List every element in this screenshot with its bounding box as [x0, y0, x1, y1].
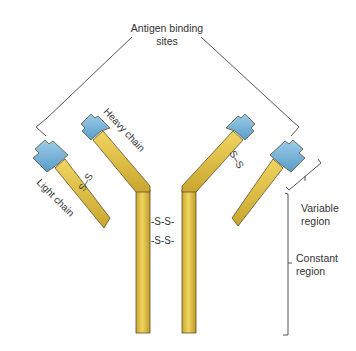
hinge-disulfide-bonds: -S-S- -S-S- [151, 216, 174, 246]
light-chain-right [232, 140, 305, 226]
constant-region-label-2: region [296, 265, 325, 277]
hinge-bond-2: -S-S- [151, 235, 174, 246]
heavy-chain-right [182, 114, 255, 333]
variable-region-label-1: Variable [301, 202, 339, 214]
antigen-binding-leaders [36, 37, 299, 136]
antibody-diagram: -S-S- -S-S- S–S S–S Heavy chain Light ch… [0, 0, 356, 351]
hinge-bond-1: -S-S- [151, 216, 174, 227]
constant-region-label-1: Constant [296, 252, 338, 264]
constant-region-bracket [283, 193, 292, 335]
antigen-binding-sites-label-2: sites [156, 35, 178, 47]
light-heavy-bond-right: S–S [227, 149, 246, 171]
light-heavy-bond-left: S–S [76, 171, 95, 193]
variable-region-label-2: region [301, 215, 330, 227]
antigen-binding-sites-label-1: Antigen binding [131, 22, 204, 34]
